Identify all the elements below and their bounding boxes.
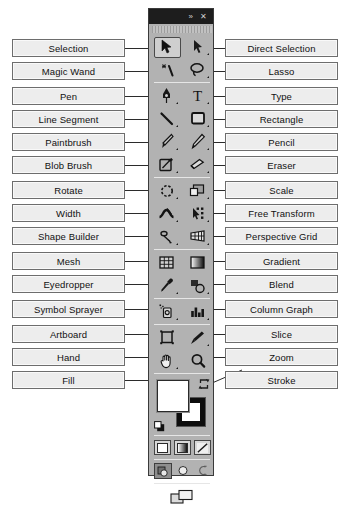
- callout-label-selection[interactable]: Selection: [12, 39, 125, 57]
- callout-label-blob-brush[interactable]: Blob Brush: [12, 156, 125, 174]
- tool-flyout-indicator-icon: [176, 318, 178, 320]
- tool-pen[interactable]: [151, 84, 182, 107]
- tool-row: [151, 130, 213, 153]
- tool-row: [151, 107, 213, 130]
- callout-label-paintbrush[interactable]: Paintbrush: [12, 133, 125, 151]
- tool-scale[interactable]: [182, 179, 213, 202]
- tool-flyout-indicator-icon: [207, 171, 209, 173]
- tool-lasso[interactable]: [182, 58, 213, 81]
- tool-group-separator: [154, 459, 210, 460]
- tool-group-separator: [154, 373, 210, 374]
- tool-column-graph[interactable]: [182, 300, 213, 323]
- panel-title-bar[interactable]: » ✕: [149, 9, 213, 24]
- tool-rotate[interactable]: [151, 179, 182, 202]
- leader-line-symbol-sprayer: [125, 309, 149, 310]
- fill-swatch[interactable]: [157, 380, 189, 412]
- tool-mesh[interactable]: [151, 251, 182, 274]
- tool-flyout-indicator-icon: [176, 367, 178, 369]
- panel-drag-grip[interactable]: [152, 26, 212, 33]
- tool-flyout-indicator-icon: [207, 148, 209, 150]
- tool-selection[interactable]: [151, 35, 182, 58]
- callout-label-free-transform[interactable]: Free Transform: [225, 204, 338, 222]
- tool-gradient[interactable]: [182, 251, 213, 274]
- callout-label-mesh[interactable]: Mesh: [12, 252, 125, 270]
- callout-label-pencil[interactable]: Pencil: [225, 133, 338, 151]
- callout-label-column-graph[interactable]: Column Graph: [225, 300, 338, 318]
- tool-blob-brush[interactable]: [151, 153, 182, 176]
- double-chevron-right-icon[interactable]: »: [189, 13, 193, 21]
- callout-label-lasso[interactable]: Lasso: [225, 62, 338, 80]
- color-button[interactable]: [154, 440, 171, 455]
- callout-label-blend[interactable]: Blend: [225, 275, 338, 293]
- leader-line-pen: [125, 96, 149, 97]
- callout-label-rectangle[interactable]: Rectangle: [225, 110, 338, 128]
- tool-flyout-indicator-icon: [176, 125, 178, 127]
- draw-normal-button[interactable]: [154, 463, 172, 479]
- tool-paintbrush[interactable]: [151, 130, 182, 153]
- callout-label-scale[interactable]: Scale: [225, 181, 338, 199]
- callout-label-perspective-grid[interactable]: Perspective Grid: [225, 227, 338, 245]
- tool-row: [151, 153, 213, 176]
- callout-label-stroke[interactable]: Stroke: [225, 371, 338, 389]
- tool-row: [151, 300, 213, 323]
- tool-flyout-indicator-icon: [176, 243, 178, 245]
- callout-label-pen[interactable]: Pen: [12, 87, 125, 105]
- callout-label-direct-selection[interactable]: Direct Selection: [225, 39, 338, 57]
- close-icon[interactable]: ✕: [200, 13, 207, 21]
- tool-pencil[interactable]: [182, 130, 213, 153]
- callout-label-slice[interactable]: Slice: [225, 325, 338, 343]
- tool-magic-wand[interactable]: [151, 58, 182, 81]
- callout-label-artboard[interactable]: Artboard: [12, 325, 125, 343]
- tool-symbol-sprayer[interactable]: [151, 300, 182, 323]
- tool-slice[interactable]: [182, 326, 213, 349]
- tool-flyout-indicator-icon: [176, 171, 178, 173]
- tool-row: [151, 251, 213, 274]
- swap-fill-stroke-icon[interactable]: [198, 378, 210, 390]
- draw-inside-button[interactable]: [194, 463, 210, 477]
- callout-label-line-segment[interactable]: Line Segment: [12, 110, 125, 128]
- illustrator-tools-panel: » ✕: [148, 8, 214, 476]
- tool-zoom[interactable]: [182, 349, 213, 372]
- callout-label-gradient[interactable]: Gradient: [225, 252, 338, 270]
- tool-row: [151, 349, 213, 372]
- tool-eyedropper[interactable]: [151, 274, 182, 297]
- callout-label-symbol-sprayer[interactable]: Symbol Sprayer: [12, 300, 125, 318]
- tool-direct-selection[interactable]: [182, 35, 213, 58]
- callout-label-hand[interactable]: Hand: [12, 348, 125, 366]
- callout-label-fill[interactable]: Fill: [12, 371, 125, 389]
- tool-line-segment[interactable]: [151, 107, 182, 130]
- none-button[interactable]: [194, 440, 211, 455]
- tool-flyout-indicator-icon: [207, 243, 209, 245]
- callout-label-type[interactable]: Type: [225, 87, 338, 105]
- leader-line-eyedropper: [125, 284, 149, 285]
- callout-label-eraser[interactable]: Eraser: [225, 156, 338, 174]
- default-fill-stroke-icon[interactable]: [154, 421, 165, 432]
- tool-free-transform[interactable]: [182, 202, 213, 225]
- tool-row: [151, 225, 213, 248]
- tool-flyout-indicator-icon: [207, 292, 209, 294]
- tool-group-separator: [154, 177, 210, 178]
- tool-rectangle[interactable]: [182, 107, 213, 130]
- tools-grid: T: [151, 35, 213, 508]
- callout-label-width[interactable]: Width: [12, 204, 125, 222]
- tool-perspective-grid[interactable]: [182, 225, 213, 248]
- tool-shape-builder[interactable]: [151, 225, 182, 248]
- tool-eraser[interactable]: [182, 153, 213, 176]
- change-screen-mode-button[interactable]: [170, 489, 194, 508]
- tool-width[interactable]: [151, 202, 182, 225]
- callout-label-eyedropper[interactable]: Eyedropper: [12, 275, 125, 293]
- tool-group-separator: [154, 483, 210, 484]
- callout-label-shape-builder[interactable]: Shape Builder: [12, 227, 125, 245]
- callout-label-zoom[interactable]: Zoom: [225, 348, 338, 366]
- callout-label-magic-wand[interactable]: Magic Wand: [12, 62, 125, 80]
- tool-hand[interactable]: [151, 349, 182, 372]
- gradient-button[interactable]: [174, 440, 191, 455]
- tool-flyout-indicator-icon: [176, 220, 178, 222]
- callout-label-rotate[interactable]: Rotate: [12, 181, 125, 199]
- tool-blend[interactable]: [182, 274, 213, 297]
- tool-artboard[interactable]: [151, 326, 182, 349]
- tool-type[interactable]: T: [182, 84, 213, 107]
- leader-line-hand: [125, 357, 149, 358]
- tool-row: [151, 326, 213, 349]
- draw-behind-button[interactable]: [175, 463, 191, 477]
